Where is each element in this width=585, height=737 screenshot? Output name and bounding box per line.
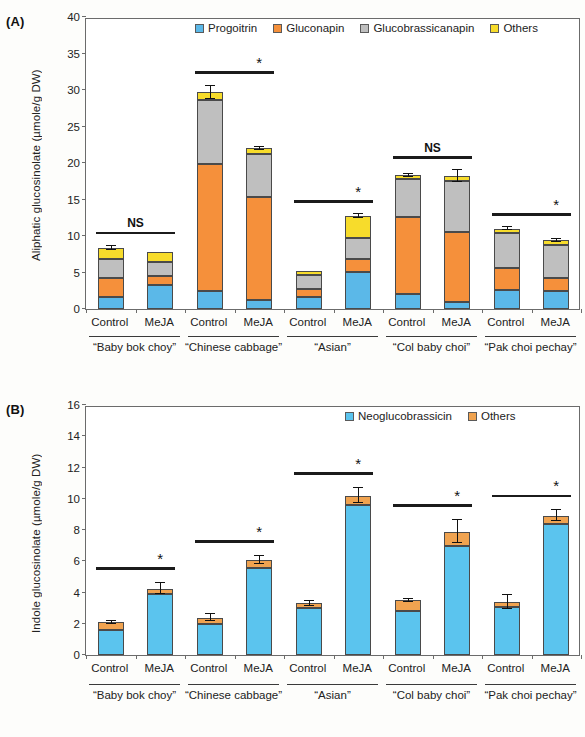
error-bar-cap	[205, 613, 215, 614]
bar-segment-glucobrassicanapin	[494, 233, 520, 268]
legend-item-gluconapin: Gluconapin	[273, 22, 344, 34]
group-label: “Asian”	[314, 341, 350, 353]
group-rule	[485, 684, 577, 685]
bar-control-2	[197, 92, 223, 309]
error-bar-cap	[353, 217, 363, 218]
bar-segment-neoglucobrassicin	[246, 568, 272, 656]
significance-line	[393, 504, 473, 507]
y-axis-tick-label: 40	[67, 11, 86, 23]
error-bar-cap	[254, 149, 264, 150]
y-axis-tick-label: 4	[74, 587, 86, 599]
x-axis-tick-mark	[433, 309, 434, 313]
group-rule	[89, 336, 181, 337]
bar-meja-5	[345, 496, 371, 655]
x-axis-tick-mark	[334, 655, 335, 659]
panel-b-legend: NeoglucobrassicinOthers	[345, 410, 531, 422]
error-bar-cap	[254, 146, 264, 147]
error-bar-cap	[502, 608, 512, 609]
legend-label: Gluconapin	[286, 22, 344, 34]
bar-meja-7	[444, 176, 470, 309]
panel-a-plot-area: 0510152025303540NS**NS*	[85, 18, 580, 310]
panel-b-plot-area: 0246810121416*****	[85, 406, 580, 656]
group-label: “Chinese cabbage”	[185, 689, 282, 701]
panel-b-tag: (B)	[6, 402, 25, 417]
error-bar	[358, 488, 359, 504]
bar-segment-gluconapin	[543, 278, 569, 291]
y-axis-tick-mark	[82, 435, 86, 436]
bar-segment-others	[395, 600, 421, 611]
group-rule	[386, 336, 478, 337]
legend-swatch-icon	[345, 412, 354, 421]
x-axis-tick-mark	[532, 309, 533, 313]
group-label: “Chinese cabbage”	[185, 341, 282, 353]
significance-line	[96, 232, 176, 235]
bar-meja-1	[147, 252, 173, 309]
legend-label: Neoglucobrassicin	[358, 410, 452, 422]
legend-swatch-icon	[490, 24, 499, 33]
significance-line	[492, 495, 572, 498]
error-bar-cap	[304, 605, 314, 606]
bar-segment-neoglucobrassicin	[98, 630, 124, 655]
y-axis-tick-mark	[82, 199, 86, 200]
bar-segment-glucobrassicanapin	[345, 238, 371, 259]
x-axis-tick-label: Control	[388, 316, 425, 328]
group-label: “Col baby choi”	[393, 689, 470, 701]
y-axis-tick-label: 0	[74, 649, 86, 661]
y-axis-tick-mark	[82, 16, 86, 17]
legend-swatch-icon	[468, 412, 477, 421]
x-axis-tick-label: MeJA	[343, 316, 372, 328]
y-axis-tick-label: 14	[67, 430, 86, 442]
legend-item-neoglucobrassicin: Neoglucobrassicin	[345, 410, 452, 422]
error-bar-cap	[353, 502, 363, 503]
panel-b-y-axis-label: Indole glucosinolate (µmole/g DW)	[30, 428, 42, 658]
y-axis-tick-label: 6	[74, 555, 86, 567]
error-bar-cap	[254, 563, 264, 564]
x-axis-tick-label: MeJA	[541, 662, 570, 674]
x-axis-tick-label: MeJA	[145, 316, 174, 328]
y-axis-tick-label: 2	[74, 618, 86, 630]
y-axis-tick-label: 8	[74, 524, 86, 536]
bar-segment-glucobrassicanapin	[98, 259, 124, 279]
x-axis-tick-label: Control	[91, 316, 128, 328]
bar-segment-progoitrin	[444, 302, 470, 309]
error-bar-cap	[551, 241, 561, 242]
bar-meja-9	[543, 516, 569, 655]
error-bar-cap	[155, 582, 165, 583]
x-axis-tick-label: Control	[190, 662, 227, 674]
legend-swatch-icon	[360, 24, 369, 33]
x-axis-tick-label: Control	[487, 662, 524, 674]
error-bar-cap	[106, 245, 116, 246]
significance-star: *	[256, 524, 262, 539]
group-label: “Baby bok choy”	[93, 341, 176, 353]
error-bar-cap	[452, 169, 462, 170]
error-bar-cap	[254, 555, 264, 556]
error-bar-cap	[353, 487, 363, 488]
error-bar-cap	[551, 520, 561, 521]
bar-meja-3	[246, 148, 272, 309]
bar-segment-glucobrassicanapin	[147, 262, 173, 276]
x-axis-tick-mark	[136, 309, 137, 313]
group-label: “Asian”	[314, 689, 350, 701]
y-axis-tick-mark	[82, 592, 86, 593]
bar-segment-neoglucobrassicin	[543, 524, 569, 655]
bar-segment-progoitrin	[197, 291, 223, 309]
bar-control-0	[98, 622, 124, 655]
significance-line	[294, 472, 374, 475]
significance-star: *	[553, 478, 559, 493]
bar-control-8	[494, 602, 520, 655]
x-axis-tick-mark	[284, 655, 285, 659]
x-axis-tick-mark	[86, 309, 87, 313]
error-bar-cap	[403, 598, 413, 599]
y-axis-tick-mark	[82, 529, 86, 530]
significance-line	[195, 540, 275, 543]
x-axis-tick-mark	[482, 309, 483, 313]
significance-star: *	[355, 456, 361, 471]
bar-meja-1	[147, 589, 173, 655]
x-axis-tick-label: Control	[388, 662, 425, 674]
significance-star: *	[256, 55, 262, 70]
significance-star: *	[454, 488, 460, 503]
bar-segment-progoitrin	[147, 285, 173, 309]
bar-segment-neoglucobrassicin	[296, 608, 322, 655]
bar-segment-gluconapin	[147, 276, 173, 285]
bar-segment-neoglucobrassicin	[444, 546, 470, 655]
